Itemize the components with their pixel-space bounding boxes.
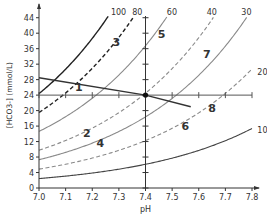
isobar-label-100: 100 (111, 8, 126, 17)
curve-number-5: 5 (158, 28, 166, 41)
buffer-line-1-8 (39, 78, 191, 107)
y-tick-label: 12 (24, 138, 34, 147)
y-tick-label: 4 (29, 169, 34, 178)
isobar-label-40: 40 (207, 8, 217, 17)
y-tick-label: 36 (24, 45, 34, 54)
y-tick-label: 28 (24, 76, 34, 85)
x-tick-label: 7.2 (86, 193, 99, 202)
x-axis-title: pH (140, 205, 151, 214)
buffer-line (39, 78, 191, 107)
y-axis-title: [HCO3-] (mmol/L) (5, 62, 14, 128)
y-axis-arrow-icon (37, 3, 41, 9)
chart-svg: 0481216202428323640447.07.17.27.37.47.57… (0, 0, 267, 219)
y-tick-label: 16 (24, 122, 34, 131)
davenport-chart: 0481216202428323640447.07.17.27.37.47.57… (0, 0, 267, 219)
x-tick-label: 7.6 (192, 193, 205, 202)
x-tick-label: 7.5 (166, 193, 179, 202)
y-tick-label: 0 (29, 184, 34, 193)
curve-number-3: 3 (112, 36, 120, 49)
y-tick-label: 8 (29, 153, 34, 162)
isobar-100 (39, 16, 108, 93)
curve-number-6: 6 (182, 120, 190, 133)
isobar-label-10: 10 (257, 126, 267, 135)
isobar-label-30: 30 (241, 8, 251, 17)
y-tick-label: 44 (24, 14, 34, 23)
axes: 0481216202428323640447.07.17.27.37.47.57… (5, 3, 260, 214)
x-tick-label: 7.1 (59, 193, 72, 202)
x-tick-label: 7.8 (246, 193, 259, 202)
y-tick-label: 40 (24, 29, 34, 38)
y-tick-label: 24 (24, 91, 34, 100)
isobar-label-20: 20 (257, 68, 267, 77)
isobar-label-60: 60 (167, 8, 177, 17)
isobar-80 (39, 17, 134, 112)
normal-point-marker (143, 93, 148, 98)
curve-number-7: 7 (203, 48, 211, 61)
x-axis-arrow-icon (254, 186, 260, 190)
x-tick-label: 7.4 (139, 193, 152, 202)
curve-number-8: 8 (208, 102, 216, 115)
curve-number-1: 1 (75, 81, 83, 94)
curve-number-2: 2 (83, 127, 91, 140)
y-tick-label: 32 (24, 60, 34, 69)
isobar-label-80: 80 (132, 8, 142, 17)
x-tick-label: 7.3 (113, 193, 126, 202)
x-tick-label: 7.7 (219, 193, 232, 202)
isobar-60 (39, 17, 167, 131)
curve-number-4: 4 (96, 137, 104, 150)
y-tick-label: 20 (24, 107, 34, 116)
x-tick-label: 7.0 (33, 193, 46, 202)
